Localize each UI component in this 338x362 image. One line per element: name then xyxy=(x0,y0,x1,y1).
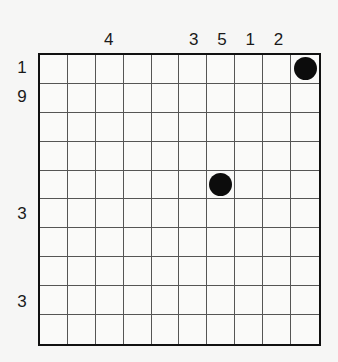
grid-cell[interactable] xyxy=(152,199,180,228)
grid-cell[interactable] xyxy=(40,84,68,113)
grid-cell[interactable] xyxy=(40,257,68,286)
grid-cell[interactable] xyxy=(207,228,235,257)
grid-cell[interactable] xyxy=(152,257,180,286)
grid-cell[interactable] xyxy=(235,315,263,344)
grid-cell[interactable] xyxy=(179,84,207,113)
grid-cell[interactable] xyxy=(124,228,152,257)
grid-cell[interactable] xyxy=(179,228,207,257)
grid-cell[interactable] xyxy=(68,228,96,257)
grid-cell[interactable] xyxy=(179,113,207,142)
grid-cell[interactable] xyxy=(152,84,180,113)
grid-cell[interactable] xyxy=(291,257,319,286)
grid-cell[interactable] xyxy=(96,257,124,286)
grid-cell[interactable] xyxy=(68,55,96,84)
grid-cell[interactable] xyxy=(124,142,152,171)
grid-cell[interactable] xyxy=(235,55,263,84)
grid-cell[interactable] xyxy=(207,171,235,200)
grid-cell[interactable] xyxy=(291,315,319,344)
grid-cell[interactable] xyxy=(124,113,152,142)
grid-cell[interactable] xyxy=(124,315,152,344)
grid-cell[interactable] xyxy=(96,228,124,257)
grid-cell[interactable] xyxy=(40,55,68,84)
grid-cell[interactable] xyxy=(263,84,291,113)
grid-cell[interactable] xyxy=(263,142,291,171)
grid-cell[interactable] xyxy=(96,142,124,171)
grid-cell[interactable] xyxy=(124,171,152,200)
grid-cell[interactable] xyxy=(207,142,235,171)
grid-cell[interactable] xyxy=(179,257,207,286)
grid-cell[interactable] xyxy=(207,84,235,113)
grid-cell[interactable] xyxy=(152,171,180,200)
grid-cell[interactable] xyxy=(68,199,96,228)
grid-cell[interactable] xyxy=(179,55,207,84)
grid-cell[interactable] xyxy=(263,257,291,286)
grid-cell[interactable] xyxy=(291,142,319,171)
grid-cell[interactable] xyxy=(235,113,263,142)
grid-cell[interactable] xyxy=(179,142,207,171)
grid-cell[interactable] xyxy=(263,113,291,142)
grid-cell[interactable] xyxy=(235,142,263,171)
grid-cell[interactable] xyxy=(68,286,96,315)
grid-cell[interactable] xyxy=(291,55,319,84)
grid-cell[interactable] xyxy=(152,315,180,344)
grid-cell[interactable] xyxy=(152,55,180,84)
grid-cell[interactable] xyxy=(124,84,152,113)
grid-cell[interactable] xyxy=(152,142,180,171)
grid-cell[interactable] xyxy=(291,113,319,142)
grid-cell[interactable] xyxy=(207,199,235,228)
grid-cell[interactable] xyxy=(68,257,96,286)
grid-cell[interactable] xyxy=(124,257,152,286)
grid-cell[interactable] xyxy=(96,113,124,142)
grid-cell[interactable] xyxy=(207,315,235,344)
grid-cell[interactable] xyxy=(68,171,96,200)
grid-cell[interactable] xyxy=(96,286,124,315)
grid-cell[interactable] xyxy=(152,228,180,257)
grid-cell[interactable] xyxy=(40,315,68,344)
grid-cell[interactable] xyxy=(179,171,207,200)
grid-cell[interactable] xyxy=(96,171,124,200)
grid-cell[interactable] xyxy=(40,171,68,200)
grid-cell[interactable] xyxy=(207,113,235,142)
grid-cell[interactable] xyxy=(235,171,263,200)
grid-cell[interactable] xyxy=(96,55,124,84)
grid-cell[interactable] xyxy=(124,55,152,84)
grid-cell[interactable] xyxy=(263,199,291,228)
grid-cell[interactable] xyxy=(96,199,124,228)
grid-cell[interactable] xyxy=(263,55,291,84)
grid-cell[interactable] xyxy=(179,286,207,315)
grid-cell[interactable] xyxy=(263,171,291,200)
grid-cell[interactable] xyxy=(235,257,263,286)
grid-cell[interactable] xyxy=(291,228,319,257)
grid-cell[interactable] xyxy=(263,228,291,257)
grid-cell[interactable] xyxy=(68,142,96,171)
grid-cell[interactable] xyxy=(179,315,207,344)
grid-cell[interactable] xyxy=(124,199,152,228)
grid-cell[interactable] xyxy=(235,84,263,113)
grid-cell[interactable] xyxy=(40,113,68,142)
grid-cell[interactable] xyxy=(152,113,180,142)
grid-cell[interactable] xyxy=(207,286,235,315)
grid-cell[interactable] xyxy=(96,315,124,344)
grid-cell[interactable] xyxy=(40,142,68,171)
grid-cell[interactable] xyxy=(124,286,152,315)
grid-cell[interactable] xyxy=(207,257,235,286)
grid-cell[interactable] xyxy=(68,113,96,142)
grid-cell[interactable] xyxy=(152,286,180,315)
grid-cell[interactable] xyxy=(263,286,291,315)
grid-cell[interactable] xyxy=(68,315,96,344)
grid-cell[interactable] xyxy=(68,84,96,113)
grid-cell[interactable] xyxy=(96,84,124,113)
grid-cell[interactable] xyxy=(291,84,319,113)
grid-cell[interactable] xyxy=(235,228,263,257)
grid-cell[interactable] xyxy=(291,171,319,200)
grid-cell[interactable] xyxy=(235,286,263,315)
grid-cell[interactable] xyxy=(179,199,207,228)
grid-cell[interactable] xyxy=(263,315,291,344)
grid-cell[interactable] xyxy=(40,286,68,315)
grid-cell[interactable] xyxy=(235,199,263,228)
grid-cell[interactable] xyxy=(207,55,235,84)
grid-cell[interactable] xyxy=(291,199,319,228)
grid-cell[interactable] xyxy=(291,286,319,315)
grid-cell[interactable] xyxy=(40,228,68,257)
grid-cell[interactable] xyxy=(40,199,68,228)
